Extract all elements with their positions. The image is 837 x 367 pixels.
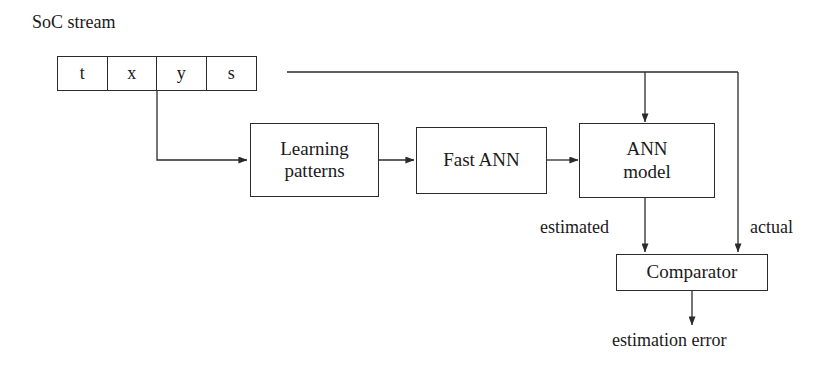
node-fast-ann: Fast ANN [416, 127, 547, 194]
node-ann-model-line1: ANN [626, 138, 667, 160]
node-ann-model: ANN model [579, 123, 715, 198]
node-learning-patterns-line1: Learning [280, 138, 349, 160]
node-comparator-line1: Comparator [647, 261, 738, 283]
connector-stream-to-learning-patterns [157, 91, 247, 160]
node-learning-patterns-line2: patterns [284, 160, 344, 182]
node-fast-ann-line1: Fast ANN [443, 149, 520, 171]
node-learning-patterns: Learning patterns [250, 123, 379, 197]
node-comparator: Comparator [616, 254, 768, 291]
edge-label-estimated: estimated [540, 217, 609, 238]
output-label-estimation-error: estimation error [612, 330, 726, 351]
block-diagram: SoC stream t x y s Learning patterns F [0, 0, 837, 367]
node-ann-model-line2: model [623, 161, 671, 183]
edge-label-actual: actual [750, 217, 793, 238]
